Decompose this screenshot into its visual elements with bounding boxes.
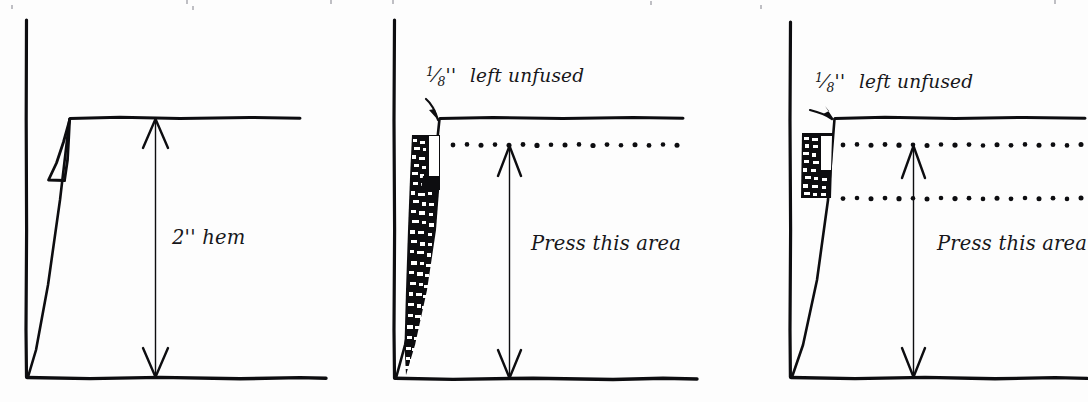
fabric-top-edge <box>70 117 300 118</box>
hem-fold-baseline <box>791 377 1087 378</box>
panel-wide-fusible: 1⁄8'' left unfused Press this area <box>363 0 726 402</box>
fraction-denominator: 8 <box>826 80 834 95</box>
fraction-glyph: 1⁄8'' <box>815 70 845 95</box>
garment-left-edge <box>26 20 27 377</box>
panel-2-drawing: 1⁄8'' left unfused Press this area <box>363 0 726 402</box>
hem-fold-baseline <box>27 377 326 378</box>
panel-3-main-label: Press this area <box>936 232 1087 255</box>
fraction-units: '' <box>835 71 846 92</box>
press-guide-dotted-line-upper <box>841 142 1084 148</box>
fraction-glyph: 1⁄8'' <box>426 64 456 89</box>
fraction-denominator: 8 <box>437 74 445 89</box>
panel-2-top-label: left unfused <box>470 65 584 86</box>
press-guide-dotted-line <box>451 142 680 148</box>
panel-narrow-fusible: 1⁄8'' left unfused Press this area <box>725 0 1088 402</box>
panel-1-main-label: 2'' hem <box>171 226 245 249</box>
panel-2-main-label: Press this area <box>530 232 681 255</box>
fused-edge-band <box>421 176 440 190</box>
hem-fold-baseline <box>395 378 697 379</box>
hem-slanted-edge <box>28 119 70 377</box>
fabric-top-edge <box>835 117 1085 118</box>
panel-2-top-label-group: 1⁄8'' left unfused <box>426 64 584 89</box>
fraction-numerator: 1 <box>426 64 434 79</box>
unfused-sliver <box>821 136 832 170</box>
press-guide-dotted-line-lower <box>841 196 1084 202</box>
panel-3-top-label: left unfused <box>859 71 973 92</box>
panel-3-drawing: 1⁄8'' left unfused Press this area <box>725 0 1088 402</box>
garment-left-edge <box>394 20 395 378</box>
garment-left-edge <box>790 22 791 377</box>
panel-1-drawing: 2'' hem <box>0 0 363 402</box>
hem-fusing-figure: 2'' hem <box>0 0 1088 402</box>
unfused-sliver <box>429 136 439 176</box>
panel-plain-hem: 2'' hem <box>0 0 363 402</box>
panel-3-top-label-group: 1⁄8'' left unfused <box>815 70 973 95</box>
fraction-numerator: 1 <box>815 70 823 85</box>
fabric-top-edge <box>440 117 683 118</box>
fraction-units: '' <box>446 65 457 86</box>
